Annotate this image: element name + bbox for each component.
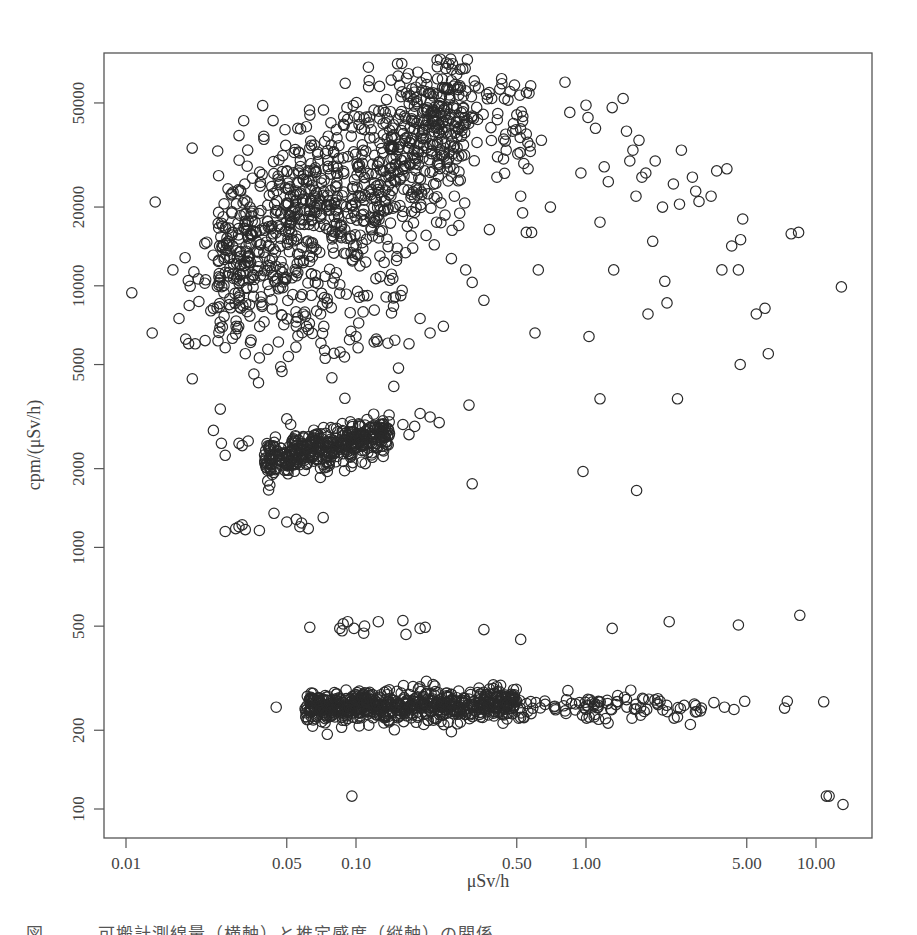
data-point [398, 419, 408, 429]
data-point [821, 791, 831, 801]
data-point [472, 137, 482, 147]
data-point [578, 466, 588, 476]
data-point [389, 381, 399, 391]
y-tick-label: 2000 [69, 452, 88, 486]
data-point [273, 337, 283, 347]
data-point [516, 634, 526, 644]
data-point [359, 621, 369, 631]
data-point [200, 335, 210, 345]
data-point [421, 230, 431, 240]
data-point [347, 791, 357, 801]
data-point [220, 526, 230, 536]
data-point [184, 300, 194, 310]
data-point [219, 199, 229, 209]
data-point [220, 450, 230, 460]
data-point [279, 320, 289, 330]
data-point [733, 265, 743, 275]
data-point [664, 617, 674, 627]
figure-caption: 図 可搬計測線量（横軸）と推定感度（縦軸）の関係 [26, 920, 494, 935]
data-point [398, 680, 408, 690]
data-point [434, 417, 444, 427]
data-point [565, 107, 575, 117]
y-tick-label: 20000 [69, 186, 88, 229]
data-point [318, 512, 328, 522]
data-point [438, 321, 448, 331]
data-point [515, 90, 525, 100]
data-point [464, 400, 474, 410]
data-point [215, 404, 225, 414]
data-point [648, 236, 658, 246]
data-point [479, 624, 489, 634]
data-point [584, 331, 594, 341]
data-point [740, 696, 750, 706]
data-point [364, 75, 374, 85]
data-point [668, 179, 678, 189]
data-point [674, 199, 684, 209]
data-point [709, 697, 719, 707]
y-tick-label: 500 [69, 613, 88, 639]
data-point [631, 485, 641, 495]
data-point [712, 166, 722, 176]
data-point [545, 202, 555, 212]
data-point [595, 394, 605, 404]
data-point [735, 359, 745, 369]
data-point [386, 308, 396, 318]
data-point [469, 156, 479, 166]
data-point [322, 729, 332, 739]
data-point [426, 203, 436, 213]
data-point [824, 791, 834, 801]
data-point [283, 351, 293, 361]
data-point [305, 622, 315, 632]
data-point [369, 409, 379, 419]
data-point [259, 317, 269, 327]
data-point [398, 615, 408, 625]
x-tick-label: 5.00 [732, 854, 762, 873]
y-axis: 100200500100020005000100002000050000 [69, 82, 104, 822]
x-tick-label: 1.00 [571, 854, 601, 873]
data-point [147, 328, 157, 338]
data-point [341, 289, 351, 299]
data-point [187, 143, 197, 153]
data-point [838, 799, 848, 809]
y-tick-label: 200 [69, 718, 88, 744]
data-point [786, 229, 796, 239]
x-tick-label: 0.10 [341, 854, 371, 873]
data-point [455, 208, 465, 218]
data-point [460, 198, 470, 208]
y-tick-label: 5000 [69, 348, 88, 382]
data-point [650, 156, 660, 166]
data-point [150, 197, 160, 207]
data-point [429, 240, 439, 250]
data-point [220, 343, 230, 353]
data-point [819, 697, 829, 707]
data-point [243, 145, 253, 155]
data-point [607, 102, 617, 112]
data-point [795, 610, 805, 620]
data-point [318, 105, 328, 115]
x-axis-title: μSv/h [467, 871, 510, 891]
y-axis-title: cpm/(μSv/h) [24, 400, 45, 491]
data-point [269, 508, 279, 518]
data-point [642, 704, 652, 714]
data-point [415, 313, 425, 323]
data-point [628, 145, 638, 155]
data-point [282, 517, 292, 527]
data-point [351, 97, 361, 107]
data-point [374, 81, 384, 91]
data-point [413, 67, 423, 77]
data-point [603, 177, 613, 187]
y-tick-label: 10000 [69, 265, 88, 308]
data-point [499, 94, 509, 104]
data-point [268, 115, 278, 125]
y-tick-label: 50000 [69, 82, 88, 125]
data-point [345, 308, 355, 318]
data-point [660, 276, 670, 286]
data-point [691, 186, 701, 196]
y-tick-label: 100 [69, 796, 88, 822]
data-point [401, 629, 411, 639]
data-point [729, 704, 739, 714]
data-point [657, 202, 667, 212]
data-point [280, 125, 290, 135]
data-point [319, 321, 329, 331]
data-point [381, 94, 391, 104]
